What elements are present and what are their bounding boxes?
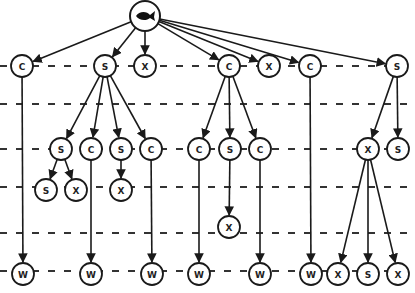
edge-n6-n26: [310, 77, 311, 262]
edge-n2-n10: [107, 77, 119, 137]
node-label: X: [395, 270, 402, 280]
node-c: C: [80, 138, 102, 160]
node-s: S: [35, 179, 57, 201]
node-x: X: [218, 216, 240, 238]
edge-n4-n13: [229, 77, 230, 137]
node-w: W: [300, 263, 322, 285]
edge-n11-n23: [151, 160, 152, 262]
node-label: S: [394, 62, 400, 72]
node-c: C: [299, 55, 321, 77]
edge-root-n2: [112, 28, 135, 57]
node-label: X: [73, 186, 80, 196]
node-w: W: [12, 263, 34, 285]
edge-n4-n12: [203, 76, 225, 137]
node-label: S: [58, 145, 64, 155]
node-label: C: [307, 62, 314, 72]
node-s: S: [94, 55, 116, 77]
node-c: C: [249, 138, 271, 160]
node-label: X: [226, 223, 233, 233]
edge-n1-n21: [22, 77, 23, 262]
edge-n8-n17: [50, 159, 57, 178]
node-label: S: [365, 270, 371, 280]
edge-n15-n29: [371, 160, 396, 263]
node-s: S: [357, 263, 379, 285]
node-label: S: [43, 186, 49, 196]
edge-n4-n14: [233, 76, 256, 137]
edge-n7-n16: [397, 77, 398, 137]
edge-n8-n18: [65, 159, 72, 178]
node-c: C: [188, 138, 210, 160]
node-s: S: [50, 138, 72, 160]
node-label: W: [306, 270, 316, 280]
node-w: W: [141, 263, 163, 285]
node-s: S: [387, 138, 409, 160]
edge-root-n5: [159, 22, 258, 62]
tree-edges: [22, 19, 398, 262]
node-x: X: [65, 179, 87, 201]
edge-n7-n15: [372, 76, 393, 137]
node-w: W: [249, 263, 271, 285]
level-dashed-lines: [0, 66, 415, 271]
edge-n15-n27: [341, 160, 366, 263]
node-label: X: [365, 145, 372, 155]
node-x: X: [134, 55, 156, 77]
node-label: X: [142, 62, 149, 72]
node-c: C: [218, 55, 240, 77]
node-c: C: [11, 55, 33, 77]
node-w: W: [188, 263, 210, 285]
node-label: W: [147, 270, 157, 280]
node-label: C: [257, 145, 264, 155]
edge-root-n1: [33, 22, 131, 62]
tree-diagram: CSXCXCSSCSCCSCXSSXXXWWWWWWXSX: [0, 0, 415, 293]
node-x: X: [110, 179, 132, 201]
node-label: W: [18, 270, 28, 280]
node-label: X: [335, 270, 342, 280]
node-label: X: [266, 62, 273, 72]
node-label: S: [227, 145, 233, 155]
node-x: X: [327, 263, 349, 285]
node-label: C: [148, 145, 155, 155]
node-label: C: [196, 145, 203, 155]
node-x: X: [387, 263, 409, 285]
root-node: [130, 1, 160, 31]
node-s: S: [110, 138, 132, 160]
node-label: S: [118, 145, 124, 155]
node-label: C: [19, 62, 26, 72]
node-x: X: [258, 55, 280, 77]
node-label: W: [86, 270, 96, 280]
node-w: W: [80, 263, 102, 285]
node-c: C: [140, 138, 162, 160]
node-label: S: [102, 62, 108, 72]
node-s: S: [386, 55, 408, 77]
node-label: C: [226, 62, 233, 72]
node-label: W: [255, 270, 265, 280]
edge-n13-n20: [229, 160, 230, 215]
edge-n2-n11: [110, 76, 145, 139]
node-label: W: [194, 270, 204, 280]
tree-nodes: CSXCXCSSCSCCSCXSSXXXWWWWWWXSX: [11, 55, 409, 285]
node-label: C: [88, 145, 95, 155]
node-s: S: [219, 138, 241, 160]
node-label: S: [395, 145, 401, 155]
node-x: X: [357, 138, 379, 160]
node-label: X: [118, 186, 125, 196]
